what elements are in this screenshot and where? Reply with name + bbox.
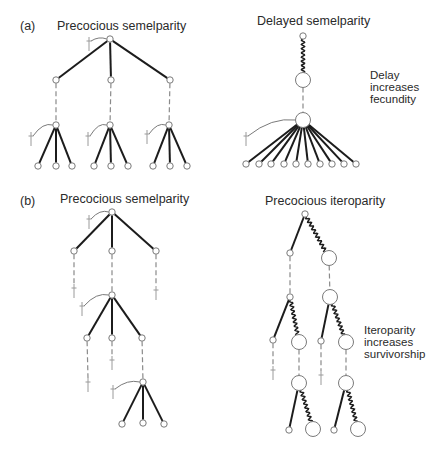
- small-individual-node: [293, 161, 299, 167]
- solid-edge: [76, 214, 110, 248]
- small-individual-node: [53, 122, 59, 128]
- small-individual-node: [287, 250, 293, 256]
- small-individual-node: [305, 161, 311, 167]
- small-individual-node: [331, 427, 337, 433]
- small-individual-node: [109, 335, 115, 341]
- solid-edge: [111, 128, 126, 163]
- small-individual-node: [53, 77, 59, 83]
- small-individual-node: [71, 248, 77, 254]
- small-individual-node: [161, 421, 167, 427]
- panel-b: (b) Precocious semelparity Precocious it…: [20, 192, 425, 360]
- large-individual-node: [296, 73, 311, 88]
- solid-edge: [290, 390, 298, 427]
- dagger-icon: [80, 302, 85, 316]
- dagger-icon: [319, 371, 324, 385]
- small-individual-node: [109, 248, 115, 254]
- solid-edge: [335, 390, 344, 427]
- panel-b-right-title: Precocious iteroparity: [265, 194, 386, 208]
- death-curve: [91, 38, 107, 41]
- small-individual-node: [69, 163, 75, 169]
- life-history-diagram: (a) Precocious semelparity Delayed semel…: [0, 0, 446, 459]
- small-individual-node: [286, 427, 292, 433]
- small-individual-node: [108, 163, 114, 169]
- small-individual-node: [109, 292, 115, 298]
- small-individual-node: [167, 77, 173, 83]
- annotation-line-2: increases: [364, 336, 413, 348]
- solid-edge: [110, 128, 111, 163]
- solid-edge: [322, 304, 329, 338]
- daggers-layer: [29, 37, 324, 399]
- panel-b-annotation: Iteroparity increases survivorship: [364, 324, 425, 360]
- dagger-icon: [271, 366, 276, 380]
- small-individual-node: [139, 335, 145, 341]
- solid-edge: [95, 128, 109, 163]
- dashed-edge: [329, 265, 330, 289]
- death-curve: [33, 124, 53, 136]
- solid-edge: [57, 128, 71, 163]
- small-individual-node: [318, 338, 324, 344]
- dagger-icon: [87, 37, 92, 51]
- large-individual-node: [296, 113, 311, 128]
- dashed-edge: [87, 341, 88, 378]
- wavy-edge: [347, 390, 358, 421]
- panel-a-label: (a): [20, 19, 35, 33]
- small-individual-node: [140, 420, 146, 426]
- solid-edge: [39, 128, 54, 163]
- large-individual-node: [339, 376, 354, 391]
- small-individual-node: [281, 161, 287, 167]
- dashed-edge: [142, 341, 143, 379]
- solid-edge: [110, 42, 111, 77]
- small-individual-node: [341, 161, 347, 167]
- wavy-edge: [289, 300, 298, 335]
- dagger-icon: [145, 130, 150, 144]
- small-individual-node: [109, 209, 115, 215]
- small-individual-node: [317, 161, 323, 167]
- wavy-edge: [300, 390, 312, 421]
- solid-edge: [114, 214, 153, 249]
- death-curve: [115, 381, 140, 389]
- small-individual-node: [108, 77, 114, 83]
- death-curves-layer: [33, 38, 296, 389]
- dashed-edge: [169, 83, 170, 122]
- small-individual-node: [91, 163, 97, 169]
- solid-edge: [291, 217, 304, 250]
- small-individual-node: [166, 122, 172, 128]
- solid-edge: [154, 128, 168, 163]
- small-individual-node: [287, 294, 293, 300]
- panel-a-left-title: Precocious semelparity: [57, 19, 187, 33]
- small-individual-node: [353, 161, 359, 167]
- dagger-icon: [111, 385, 116, 399]
- annotation-line-1: Iteroparity: [364, 324, 415, 336]
- small-individual-node: [150, 163, 156, 169]
- small-individual-node: [107, 122, 113, 128]
- small-individual-node: [256, 161, 262, 167]
- dagger-icon: [86, 132, 91, 146]
- wavy-edge: [306, 217, 326, 252]
- dagger-icon: [86, 378, 91, 392]
- annotation-line-1: Delay: [370, 69, 400, 81]
- wavy-edge: [331, 304, 344, 334]
- small-individual-node: [270, 337, 276, 343]
- small-individual-node: [84, 335, 90, 341]
- panel-a: (a) Precocious semelparity Delayed semel…: [20, 14, 419, 105]
- annotation-line-3: survivorship: [364, 348, 425, 360]
- panel-a-right-title: Delayed semelparity: [257, 14, 371, 28]
- large-individual-node: [292, 335, 307, 350]
- panel-a-annotation: Delay increases fecundity: [370, 69, 419, 105]
- small-individual-node: [302, 211, 308, 217]
- large-individual-node: [339, 335, 354, 350]
- solid-edge: [309, 125, 354, 162]
- solid-edge: [89, 298, 111, 335]
- large-individual-node: [351, 422, 366, 437]
- annotation-line-3: fecundity: [370, 93, 416, 105]
- death-curve: [84, 294, 109, 306]
- dagger-icon: [29, 132, 34, 146]
- solid-edge: [274, 300, 289, 337]
- small-individual-node: [125, 163, 131, 169]
- solid-edge: [169, 128, 170, 163]
- small-individual-node: [53, 163, 59, 169]
- edges-layer: [39, 39, 357, 427]
- panel-b-left-title: Precocious semelparity: [60, 192, 190, 206]
- solid-edge: [170, 128, 185, 163]
- small-individual-node: [268, 161, 274, 167]
